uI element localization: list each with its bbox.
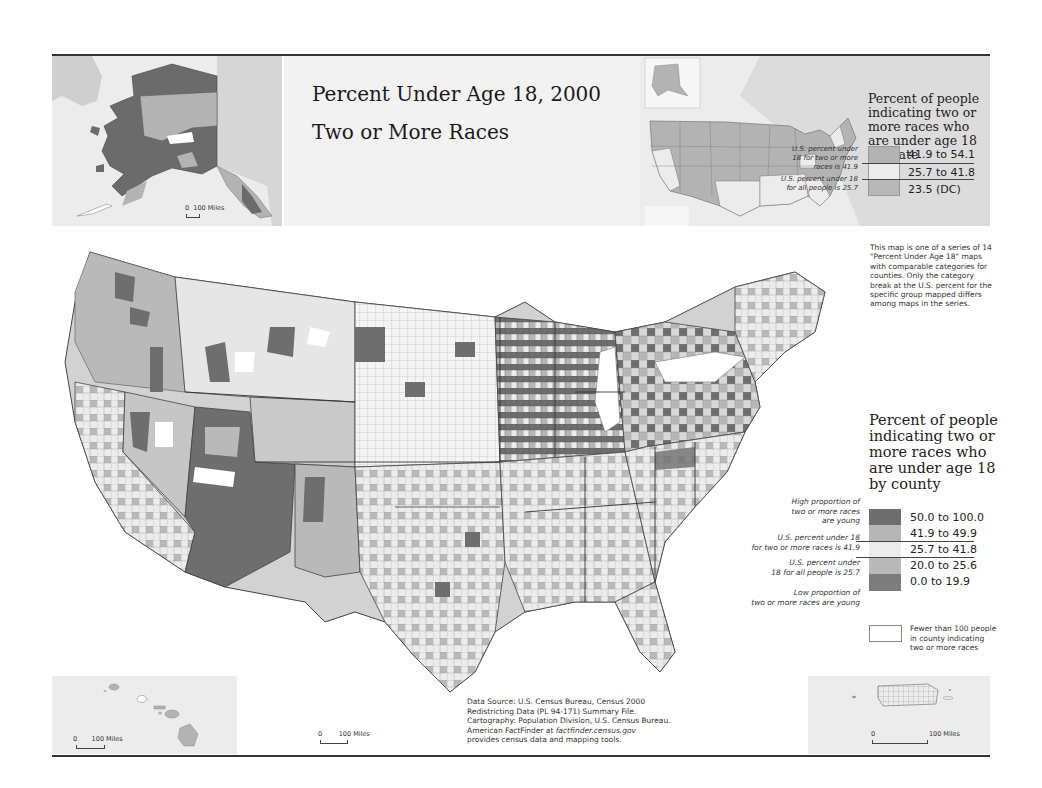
county-note-low: Low proportion of two or more races are …	[730, 588, 860, 607]
pr-scale-label: 0 100 Miles	[871, 730, 960, 738]
county-swatch-fewer-than-100	[869, 625, 902, 642]
state-note-upper: U.S. percent under 18 for two or more ra…	[790, 145, 858, 172]
bottom-rule	[52, 755, 990, 757]
county-legend-label-5: 0.0 to 19.9	[910, 575, 970, 588]
state-legend-label-1: 41.9 to 54.1	[908, 148, 975, 161]
alaska-map	[52, 56, 282, 226]
county-swatch-50-100	[869, 509, 901, 525]
county-legend-swatches	[869, 509, 901, 591]
county-break-25-7	[856, 557, 974, 558]
state-swatch-high	[869, 147, 899, 163]
data-source-note: Data Source: U.S. Census Bureau, Census …	[467, 697, 737, 745]
county-break-41-9	[856, 541, 974, 542]
state-note-lower: U.S. percent under 18 for all people is …	[780, 175, 858, 193]
alaska-scale-label: 0 100 Miles	[185, 204, 224, 212]
state-break-25-7	[862, 179, 974, 180]
state-swatch-mid	[869, 163, 899, 180]
us-county-choropleth-map	[55, 232, 865, 702]
county-legend-label-3: 25.7 to 41.8	[910, 543, 977, 556]
county-legend-label-4: 20.0 to 25.6	[910, 559, 977, 572]
series-note: This map is one of a series of 14 "Perce…	[870, 243, 995, 309]
county-legend-label-1: 50.0 to 100.0	[910, 511, 984, 524]
state-legend-swatches	[868, 146, 900, 196]
state-swatch-dc	[869, 180, 899, 195]
map-subtitle: Two or More Races	[312, 120, 509, 144]
hawaii-scale-bar	[76, 745, 105, 749]
puerto-rico-inset: 0 100 Miles	[808, 676, 990, 754]
state-legend-label-3: 23.5 (DC)	[908, 183, 961, 196]
county-note-us-all: U.S. percent under 18 for all people is …	[740, 558, 860, 577]
conus-scale-label: 0 100 Miles	[318, 730, 370, 738]
county-legend-fewer-label: Fewer than 100 people in county indicati…	[910, 624, 1000, 653]
county-swatch-25-7-41-8	[869, 541, 901, 557]
conus-scale-bar	[320, 740, 348, 744]
county-note-us-group: U.S. percent under 18 for two or more ra…	[730, 533, 860, 552]
county-legend-label-2: 41.9 to 49.9	[910, 527, 977, 540]
county-swatch-41-9-49-9	[869, 525, 901, 541]
county-legend-title: Percent of people indicating two or more…	[869, 412, 1009, 492]
title-panel: Percent Under Age 18, 2000 Two or More R…	[284, 56, 640, 226]
hawaii-inset: 0 100 Miles	[52, 676, 237, 754]
county-note-high: High proportion of two or more races are…	[740, 497, 860, 526]
county-swatch-20-25-6	[869, 557, 901, 574]
hawaii-scale-label: 0 100 Miles	[73, 735, 123, 743]
factfinder-link[interactable]: factfinder.census.gov	[556, 726, 636, 735]
map-title: Percent Under Age 18, 2000	[312, 82, 601, 106]
state-break-41-9	[862, 163, 974, 164]
pr-scale-bar	[872, 740, 928, 744]
state-legend-label-2: 25.7 to 41.8	[908, 166, 975, 179]
county-swatch-0-19-9	[869, 574, 901, 591]
alaska-scale-bar	[186, 214, 200, 218]
alaska-inset: 0 100 Miles	[52, 56, 282, 226]
